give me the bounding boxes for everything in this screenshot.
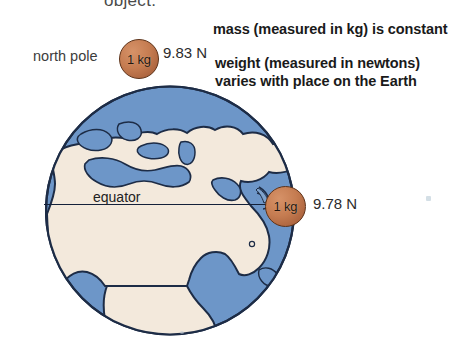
weight-value-equator: 9.78 N bbox=[313, 195, 357, 212]
scan-artifact-speck bbox=[426, 196, 431, 201]
mass-ball-north-pole: 1 kg bbox=[119, 39, 159, 79]
cut-off-heading-text: object. bbox=[104, 0, 156, 11]
mass-ball-equator: 1 kg bbox=[265, 186, 306, 227]
diagram-page: object. mass (measured in kg) is constan… bbox=[0, 0, 466, 360]
label-equator: equator bbox=[93, 189, 140, 205]
scan-artifact-speck-secondary bbox=[180, 331, 184, 334]
mass-ball-north-pole-label: 1 kg bbox=[127, 52, 151, 67]
label-north-pole: north pole bbox=[33, 48, 98, 64]
weight-value-north-pole: 9.83 N bbox=[163, 44, 207, 61]
annotation-mass-constant: mass (measured in kg) is constant bbox=[213, 21, 447, 37]
annotation-weight-varies-line1: weight (measured in newtons) bbox=[215, 55, 420, 71]
mass-ball-equator-label: 1 kg bbox=[274, 199, 298, 214]
